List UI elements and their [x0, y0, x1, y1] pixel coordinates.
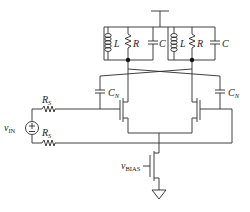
rs-top-resistor-icon — [42, 106, 55, 112]
rs-bottom-label: RS — [41, 127, 52, 139]
capacitor-label: C — [159, 38, 166, 49]
resistor-label: R — [196, 38, 203, 49]
nmos-tail-icon — [143, 133, 159, 190]
resistor-icon — [125, 27, 131, 60]
nmos-right-icon — [192, 98, 232, 143]
tank-left: L R C — [104, 27, 166, 62]
cn-left — [95, 76, 105, 109]
tank-right: L R C — [168, 27, 229, 62]
resistor-icon — [189, 27, 195, 60]
cn-right-label: CN — [228, 87, 240, 99]
input-source — [26, 109, 43, 143]
vdd-supply-icon — [151, 11, 169, 27]
capacitor-icon — [148, 37, 158, 48]
capacitor-label: C — [222, 38, 229, 49]
cn-left-label: CN — [108, 87, 120, 99]
circuit-diagram: L R C L — [0, 0, 250, 212]
capacitor-icon — [210, 37, 220, 48]
inductor-icon — [105, 27, 111, 60]
vin-label: vIN — [4, 122, 16, 134]
rs-top-label: RS — [41, 94, 52, 106]
resistor-label: R — [132, 38, 139, 49]
vbias-label: vBIAS — [121, 160, 141, 172]
inductor-label: L — [179, 38, 186, 49]
ground-icon — [152, 190, 166, 199]
inductor-label: L — [113, 38, 120, 49]
cn-right — [215, 76, 225, 109]
rs-bottom-resistor-icon — [42, 140, 55, 146]
inductor-icon — [171, 27, 177, 60]
nmos-left-icon — [55, 98, 192, 133]
